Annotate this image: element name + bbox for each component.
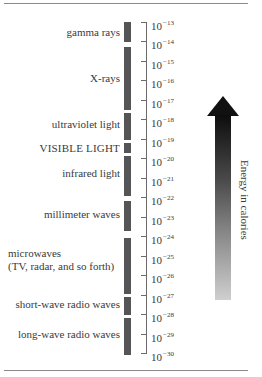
- tick-mark: [141, 158, 147, 159]
- band-bar: [124, 238, 131, 294]
- tick-base: 10: [151, 78, 162, 90]
- tick-exponent: −26: [163, 272, 174, 280]
- band-label: X-rays: [90, 72, 120, 85]
- band-label: gamma rays: [67, 26, 120, 39]
- tick-mark: [141, 314, 147, 315]
- band-bar: [124, 156, 131, 196]
- band-bar: [124, 113, 131, 140]
- tick-label: 10−26: [151, 270, 174, 285]
- tick-exponent: −23: [163, 214, 174, 222]
- tick-mark: [141, 61, 147, 62]
- tick-base: 10: [151, 156, 162, 168]
- tick-mark: [141, 41, 147, 42]
- tick-exponent: −19: [163, 136, 174, 144]
- tick-label: 10−20: [151, 153, 174, 168]
- arrow-up-icon: [207, 96, 239, 116]
- energy-axis-title: Energy in calories: [239, 160, 251, 240]
- tick-base: 10: [151, 215, 162, 227]
- band-label: short-wave radio waves: [16, 298, 120, 311]
- band-bar: [124, 143, 131, 153]
- top-rule: [4, 3, 248, 4]
- tick-label: 10−23: [151, 212, 174, 227]
- tick-label: 10−13: [151, 17, 174, 32]
- tick-label: 10−24: [151, 231, 174, 246]
- tick-base: 10: [151, 98, 162, 110]
- tick-exponent: −13: [163, 19, 174, 27]
- tick-mark: [141, 295, 147, 296]
- scale-axis: [146, 22, 147, 354]
- tick-label: 10−28: [151, 309, 174, 324]
- band-bar: [124, 47, 131, 110]
- tick-mark: [141, 178, 147, 179]
- tick-label: 10−25: [151, 251, 174, 266]
- tick-base: 10: [151, 137, 162, 149]
- tick-mark: [141, 256, 147, 257]
- tick-exponent: −29: [163, 331, 174, 339]
- tick-label: 10−22: [151, 192, 174, 207]
- tick-exponent: −27: [163, 292, 174, 300]
- tick-base: 10: [151, 332, 162, 344]
- tick-exponent: −24: [163, 233, 174, 241]
- bottom-rule: [4, 370, 248, 371]
- tick-mark: [141, 119, 147, 120]
- tick-label: 10−17: [151, 95, 174, 110]
- tick-mark: [141, 197, 147, 198]
- tick-base: 10: [151, 20, 162, 32]
- tick-base: 10: [151, 39, 162, 51]
- tick-label: 10−14: [151, 36, 174, 51]
- tick-mark: [141, 275, 147, 276]
- tick-base: 10: [151, 59, 162, 71]
- band-bar: [124, 318, 131, 355]
- tick-mark: [141, 100, 147, 101]
- tick-mark: [141, 236, 147, 237]
- band-label: long-wave radio waves: [18, 328, 120, 341]
- tick-label: 10−19: [151, 134, 174, 149]
- tick-base: 10: [151, 273, 162, 285]
- tick-exponent: −28: [163, 311, 174, 319]
- band-bar: [124, 201, 131, 231]
- tick-mark: [141, 22, 147, 23]
- tick-base: 10: [151, 293, 162, 305]
- tick-mark: [141, 139, 147, 140]
- tick-exponent: −16: [163, 77, 174, 85]
- tick-exponent: −15: [163, 58, 174, 66]
- tick-base: 10: [151, 176, 162, 188]
- band-label: VISIBLE LIGHT: [39, 142, 120, 155]
- tick-base: 10: [151, 312, 162, 324]
- tick-exponent: −21: [163, 175, 174, 183]
- tick-label: 10−30: [151, 348, 174, 363]
- tick-exponent: −20: [163, 155, 174, 163]
- tick-label: 10−29: [151, 329, 174, 344]
- tick-base: 10: [151, 117, 162, 129]
- tick-exponent: −14: [163, 38, 174, 46]
- tick-label: 10−27: [151, 290, 174, 305]
- tick-base: 10: [151, 195, 162, 207]
- tick-exponent: −22: [163, 194, 174, 202]
- tick-exponent: −30: [163, 350, 174, 358]
- band-bar: [124, 297, 131, 315]
- tick-mark: [141, 334, 147, 335]
- tick-base: 10: [151, 254, 162, 266]
- tick-exponent: −18: [163, 116, 174, 124]
- energy-gradient-arrow: [215, 115, 231, 300]
- tick-exponent: −25: [163, 253, 174, 261]
- tick-label: 10−15: [151, 56, 174, 71]
- tick-base: 10: [151, 351, 162, 363]
- band-label: ultraviolet light: [52, 118, 120, 131]
- tick-label: 10−21: [151, 173, 174, 188]
- band-label-line: (TV, radar, and so forth): [8, 260, 114, 273]
- band-label: infrared light: [62, 167, 120, 180]
- band-label: millimeter waves: [44, 208, 120, 221]
- tick-exponent: −17: [163, 97, 174, 105]
- tick-base: 10: [151, 234, 162, 246]
- tick-label: 10−18: [151, 114, 174, 129]
- band-label-line: microwaves: [8, 247, 114, 260]
- band-label: microwaves(TV, radar, and so forth): [8, 247, 114, 273]
- tick-mark: [141, 80, 147, 81]
- band-bar: [124, 22, 131, 42]
- tick-mark: [141, 217, 147, 218]
- tick-mark: [141, 353, 147, 354]
- tick-label: 10−16: [151, 75, 174, 90]
